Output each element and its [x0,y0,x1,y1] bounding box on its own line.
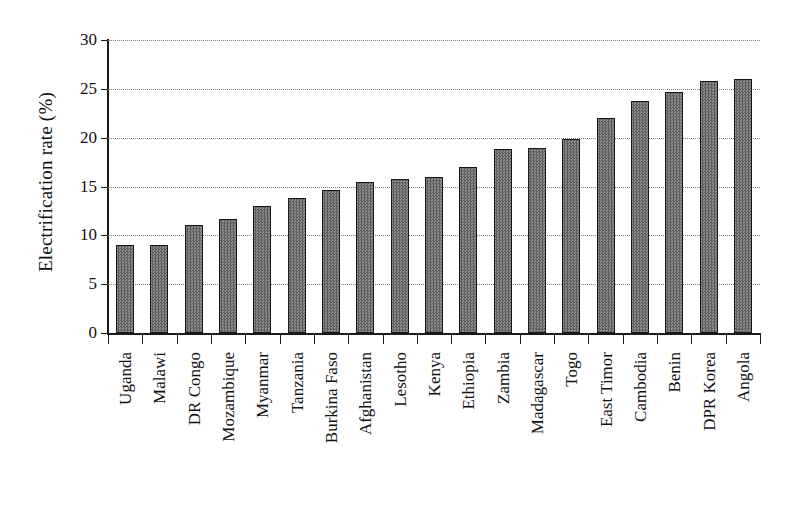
x-axis-label: Ethiopia [459,346,477,506]
bar [288,198,306,333]
x-axis-label: Angola [734,346,752,506]
x-axis-label: Malawi [150,346,168,506]
bar [459,167,477,333]
y-tick-label: 5 [89,274,98,294]
bar [356,182,374,333]
x-tick-mark [520,334,521,344]
x-tick-mark [348,334,349,344]
x-tick-mark [108,334,109,344]
x-tick-mark [177,334,178,344]
gridline [108,40,760,42]
bar [528,148,546,333]
x-tick-mark [623,334,624,344]
bar [631,101,649,333]
y-tick-mark [101,89,108,90]
y-tick-label: 25 [80,79,97,99]
x-axis-label: Madagascar [528,346,546,506]
x-axis-label: Mozambique [219,346,237,506]
x-axis-label: Cambodia [631,346,649,506]
x-tick-mark [554,334,555,344]
x-axis-label: Benin [665,346,683,506]
x-axis-line [107,333,761,335]
x-tick-mark [211,334,212,344]
bar [185,225,203,333]
x-axis-label: Togo [562,346,580,506]
x-tick-mark [417,334,418,344]
x-axis-label: Afghanistan [356,346,374,506]
x-tick-mark [142,334,143,344]
x-tick-mark [383,334,384,344]
x-tick-mark [451,334,452,344]
bar [116,245,134,333]
x-axis-label: Tanzania [288,346,306,506]
y-tick-mark [101,284,108,285]
bar [734,79,752,333]
x-axis-label: Burkina Faso [322,346,340,506]
electrification-rate-bar-chart: Electrification rate (%) 051015202530 Ug… [0,0,793,506]
x-axis-label: East Timor [597,346,615,506]
y-tick-mark [101,187,108,188]
gridline [108,89,760,91]
x-tick-mark [245,334,246,344]
x-axis-label: Myanmar [253,346,271,506]
y-axis-title: Electrification rate (%) [35,37,63,327]
bar [253,206,271,333]
x-axis-label: Zambia [494,346,512,506]
x-axis-label: Kenya [425,346,443,506]
bar [322,190,340,333]
x-tick-mark [657,334,658,344]
x-tick-mark [691,334,692,344]
bar [665,92,683,333]
y-tick-label: 10 [80,225,97,245]
y-tick-mark [101,333,108,334]
bar [562,139,580,333]
gridline [108,138,760,140]
bar [150,245,168,333]
x-tick-mark [280,334,281,344]
bar [494,149,512,333]
bar [425,177,443,333]
y-tick-label: 0 [89,323,98,343]
y-tick-label: 20 [80,128,97,148]
x-axis-label: Uganda [116,346,134,506]
x-axis-label: Lesotho [391,346,409,506]
bar [391,179,409,333]
y-tick-mark [101,235,108,236]
y-tick-label: 30 [80,30,97,50]
y-tick-mark [101,138,108,139]
y-tick-label: 15 [80,177,97,197]
x-axis-label: DPR Korea [700,346,718,506]
x-tick-mark [726,334,727,344]
bar [219,219,237,333]
x-tick-mark [314,334,315,344]
x-tick-mark [588,334,589,344]
x-axis-label: DR Congo [185,346,203,506]
bar [700,81,718,333]
x-tick-mark [485,334,486,344]
y-tick-mark [101,40,108,41]
plot-area: 051015202530 UgandaMalawiDR CongoMozambi… [108,40,760,333]
bar [597,118,615,333]
x-tick-mark [760,334,761,344]
